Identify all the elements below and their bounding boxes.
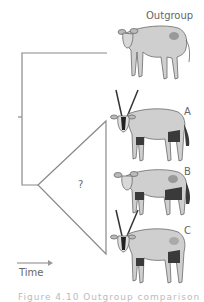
- taxon-a-animal-icon: [111, 90, 190, 161]
- taxon-a-label: A: [184, 107, 191, 117]
- taxon-c-animal-icon: [111, 210, 185, 283]
- outgroup-branch: [22, 53, 107, 185]
- ingroup-clade-triangle: [38, 121, 106, 254]
- unknown-relationship-label: ?: [78, 180, 83, 190]
- outgroup-label: Outgroup: [146, 11, 193, 21]
- time-axis-label: Time: [19, 268, 43, 278]
- figure-caption: Figure 4.10 Outgroup comparison: [18, 292, 200, 302]
- taxon-b-animal-icon: [114, 170, 190, 215]
- taxon-b-label: B: [184, 167, 191, 177]
- taxon-c-label: C: [184, 226, 191, 236]
- outgroup-animal-icon: [118, 26, 190, 79]
- tree: [18, 53, 107, 254]
- time-arrow-icon: [17, 260, 53, 266]
